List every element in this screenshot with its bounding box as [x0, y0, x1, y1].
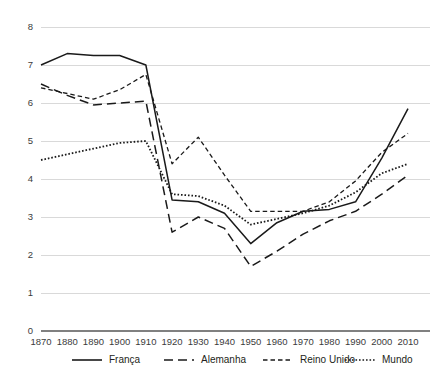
y-tick-label-0: 0 [28, 325, 33, 336]
x-tick-label-1920: 1920 [162, 336, 183, 347]
x-tick-label-1970: 1970 [293, 336, 314, 347]
x-tick-label-1880: 1880 [57, 336, 78, 347]
y-tick-label-3: 3 [28, 211, 33, 222]
x-tick-label-1950: 1950 [240, 336, 261, 347]
legend-label-alemanha: Alemanha [201, 354, 246, 365]
x-tick-label-1870: 1870 [30, 336, 51, 347]
y-tick-label-5: 5 [28, 135, 33, 146]
x-axis-tick-labels: 1870188018901900191019201930194019501960… [30, 336, 418, 347]
y-tick-label-2: 2 [28, 249, 33, 260]
x-tick-label-1990: 1990 [345, 336, 366, 347]
y-axis-tick-labels: 012345678 [28, 21, 33, 336]
y-tick-label-6: 6 [28, 97, 33, 108]
series-line-reino-unido [41, 75, 408, 212]
data-series-group [41, 54, 408, 267]
x-tick-label-1940: 1940 [214, 336, 235, 347]
chart-canvas: 012345678 187018801890190019101920193019… [0, 0, 438, 377]
legend-label-mundo: Mundo [382, 354, 413, 365]
y-tick-label-8: 8 [28, 21, 33, 32]
line-chart: 012345678 187018801890190019101920193019… [0, 0, 438, 377]
x-tick-label-1910: 1910 [135, 336, 156, 347]
grid-lines [41, 27, 430, 293]
y-tick-label-7: 7 [28, 59, 33, 70]
chart-legend: FrançaAlemanhaReino UnidoMundo [72, 354, 413, 365]
x-tick-label-2000: 2000 [371, 336, 392, 347]
x-tick-label-2010: 2010 [397, 336, 418, 347]
x-tick-label-1900: 1900 [109, 336, 130, 347]
x-tick-label-1930: 1930 [188, 336, 209, 347]
x-tick-label-1960: 1960 [266, 336, 287, 347]
y-tick-label-1: 1 [28, 287, 33, 298]
legend-label-reino-unido: Reino Unido [300, 354, 355, 365]
y-tick-label-4: 4 [28, 173, 33, 184]
x-tick-label-1980: 1980 [319, 336, 340, 347]
legend-label-franca: França [109, 354, 141, 365]
x-tick-label-1890: 1890 [83, 336, 104, 347]
